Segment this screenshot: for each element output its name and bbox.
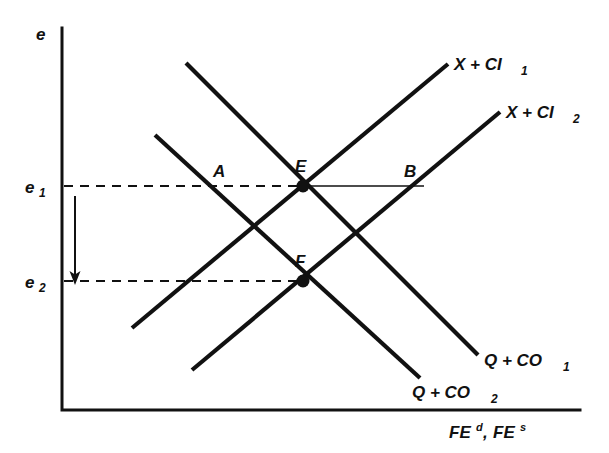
curve-label-q-co-1-base: Q + CO bbox=[484, 351, 542, 370]
y-tick-e1: e 1 bbox=[25, 178, 46, 200]
curve-label-x-ci-1: X + CI 1 bbox=[453, 55, 528, 78]
y-axis-label: e bbox=[36, 25, 45, 44]
point-label-E: E bbox=[295, 157, 307, 176]
x-axis-label-demand-base: FE bbox=[449, 423, 471, 442]
point-label-F: F bbox=[295, 252, 306, 271]
diagram-canvas: e e 1 e 2 A E B F bbox=[0, 0, 609, 453]
point-marker-E bbox=[297, 180, 310, 193]
curve-label-x-ci-2-base: X + CI bbox=[505, 103, 555, 122]
curve-label-q-co-1: Q + CO 1 bbox=[484, 351, 570, 374]
curve-q-co-1 bbox=[186, 63, 478, 355]
point-label-A: A bbox=[212, 162, 225, 181]
x-axis-label-demand-sup: d bbox=[476, 421, 483, 433]
y-tick-e2: e 2 bbox=[25, 273, 46, 295]
curve-label-q-co-2-sub: 2 bbox=[490, 392, 498, 406]
y-tick-e2-sub: 2 bbox=[38, 281, 46, 295]
x-axis-label-supply-base: FE bbox=[493, 423, 515, 442]
curve-label-x-ci-1-base: X + CI bbox=[453, 55, 503, 74]
x-axis-label-separator: , bbox=[482, 423, 488, 442]
curve-label-x-ci-2-sub: 2 bbox=[572, 112, 580, 126]
curve-label-x-ci-1-sub: 1 bbox=[521, 64, 528, 78]
point-label-B: B bbox=[404, 162, 416, 181]
x-axis-label-supply-sup: s bbox=[520, 421, 526, 433]
y-tick-e1-sub: 1 bbox=[39, 186, 46, 200]
curve-label-q-co-2: Q + CO 2 bbox=[412, 383, 498, 406]
curve-label-q-co-2-base: Q + CO bbox=[412, 383, 470, 402]
curve-label-x-ci-2: X + CI 2 bbox=[505, 103, 580, 126]
y-tick-e2-base: e bbox=[25, 273, 34, 292]
depreciation-arrow bbox=[70, 196, 81, 285]
y-tick-e1-base: e bbox=[25, 178, 34, 197]
curve-label-q-co-1-sub: 1 bbox=[563, 360, 570, 374]
x-axis-label: FE d , FE s bbox=[449, 421, 526, 442]
point-marker-F bbox=[297, 275, 310, 288]
exchange-rate-diagram: e e 1 e 2 A E B F bbox=[0, 0, 609, 453]
